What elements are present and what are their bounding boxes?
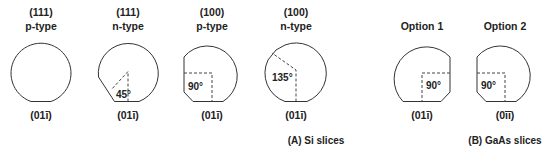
wafer-type-label: p-type xyxy=(25,20,57,32)
caption-si-slices: (A) Si slices xyxy=(288,135,345,146)
primary-flat-label: (01ī) xyxy=(201,109,223,121)
wafer-si-111-p: (111) p-type (01ī) xyxy=(11,6,71,121)
angle-label: 45° xyxy=(116,89,131,100)
wafer-type-label: n-type xyxy=(280,20,312,32)
primary-flat-label: (01ī) xyxy=(117,109,139,121)
option-title: Option 2 xyxy=(484,20,527,32)
angle-label: 90° xyxy=(481,80,496,91)
wafer-si-100-p: (100) p-type 90° (01ī) xyxy=(184,6,237,121)
wafer-gaas-option-2: Option 2 90° (0īī) xyxy=(477,20,530,121)
wafer-gaas-option-1: Option 1 90° (01ī) xyxy=(394,20,450,121)
primary-flat-label: (01ī) xyxy=(30,109,52,121)
angle-label: 90° xyxy=(426,80,441,91)
wafer-orientation-label: (111) xyxy=(116,6,139,18)
wafer-orientation-label: (100) xyxy=(200,6,225,18)
wafer-si-111-n: (111) n-type 45° (01ī) xyxy=(98,6,158,121)
wafer-orientation-label: (111) xyxy=(29,6,52,18)
wafer-orientation-label: (100) xyxy=(284,6,309,18)
wafer-outline xyxy=(11,43,71,101)
primary-flat-label: (01ī) xyxy=(411,109,433,121)
wafer-type-label: p-type xyxy=(196,20,228,32)
primary-flat-label: (01ī) xyxy=(285,109,307,121)
caption-gaas-slices: (B) GaAs slices xyxy=(468,135,542,146)
wafer-type-label: n-type xyxy=(112,20,144,32)
wafer-flats-diagram: (111) p-type (01ī) (111) n-type 45° (01ī… xyxy=(0,0,547,152)
angle-label: 90° xyxy=(188,81,203,92)
wafer-outline xyxy=(184,46,237,102)
wafer-outline xyxy=(477,46,530,102)
primary-flat-label: (0īī) xyxy=(496,109,515,121)
wafer-outline xyxy=(394,47,450,102)
angle-label: 135° xyxy=(272,72,293,83)
option-title: Option 1 xyxy=(401,20,444,32)
wafer-si-100-n: (100) n-type 135° (01ī) xyxy=(265,6,326,121)
